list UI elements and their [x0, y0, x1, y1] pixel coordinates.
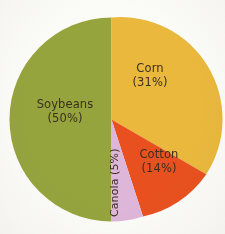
pie-label-corn: Corn (31%) — [118, 62, 182, 89]
pie-chart: Corn (31%) Soybeans (50%) Cotton (14%) C… — [0, 0, 225, 234]
pie-label-corn-percent: (31%) — [118, 76, 182, 90]
pie-label-cotton: Cotton (14%) — [126, 148, 192, 175]
pie-label-corn-name: Corn — [136, 61, 163, 75]
pie-label-cotton-percent: (14%) — [126, 162, 192, 176]
pie-label-canola-name: Canola (5%) — [108, 148, 121, 217]
pie-label-cotton-name: Cotton — [139, 147, 178, 161]
pie-label-soybeans-percent: (50%) — [24, 112, 106, 126]
pie-label-soybeans-name: Soybeans — [37, 97, 94, 111]
pie-label-canola: Canola (5%) — [108, 144, 122, 222]
pie-label-soybeans: Soybeans (50%) — [24, 98, 106, 125]
